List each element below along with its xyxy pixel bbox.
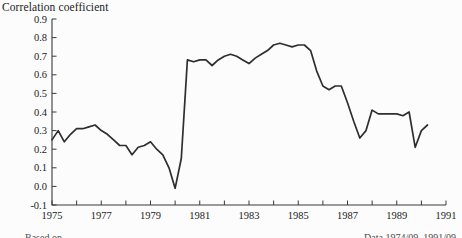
correlation-line: [52, 43, 428, 188]
x-tick-label: 1979: [140, 210, 161, 221]
x-tick-label: 1985: [288, 210, 309, 221]
x-tick-label: 1989: [386, 210, 407, 221]
chart-plot-area: 0.90.80.70.60.50.40.30.20.10.0-0.1197519…: [0, 0, 462, 230]
y-tick-label: 0.3: [34, 125, 47, 136]
x-tick-label: 1987: [337, 210, 358, 221]
y-tick-label: 0.7: [34, 51, 47, 62]
y-tick-label: 0.4: [34, 107, 48, 118]
figure-caption-right: Data 1974/09–1991/09: [364, 232, 456, 238]
y-tick-label: 0.2: [34, 144, 47, 155]
y-tick-label: 0.9: [34, 14, 47, 25]
chart-figure: Correlation coefficient 0.90.80.70.60.50…: [0, 0, 462, 238]
x-tick-label: 1975: [42, 210, 63, 221]
y-tick-label: 0.8: [34, 32, 47, 43]
y-tick-label: 0.6: [34, 69, 47, 80]
x-tick-label: 1983: [239, 210, 260, 221]
x-tick-label: 1977: [91, 210, 112, 221]
axis-lines: [52, 19, 446, 205]
y-tick-label: 0.0: [34, 181, 47, 192]
x-tick-label: 1981: [189, 210, 210, 221]
y-tick-label: -0.1: [30, 200, 47, 211]
y-tick-label: 0.5: [34, 88, 47, 99]
x-tick-label: 1991: [436, 210, 457, 221]
figure-caption-left: Based on: [25, 232, 62, 238]
y-tick-label: 0.1: [34, 162, 47, 173]
